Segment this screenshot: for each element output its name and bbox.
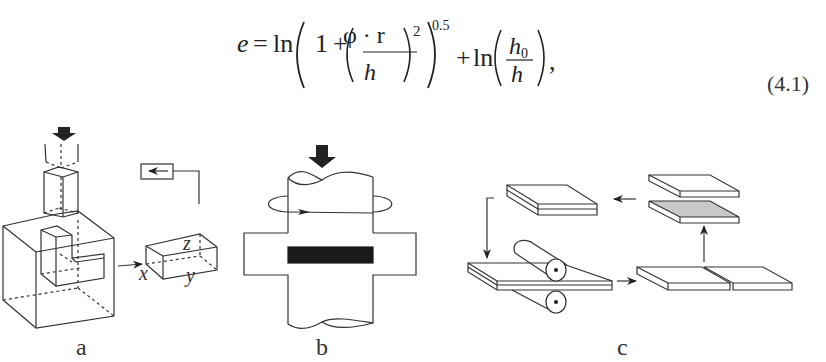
figure-b-hpt (244, 145, 416, 328)
figure-diagrams (0, 0, 826, 362)
press-arrow-icon (52, 127, 76, 141)
figure-a-ecap (3, 127, 217, 328)
axis-label-x: x (139, 262, 148, 285)
figure-c-arb (468, 175, 792, 313)
press-arrow-icon (308, 145, 336, 168)
axis-label-z: z (183, 232, 191, 255)
figure-label-c: c (617, 334, 628, 361)
figure-label-b: b (316, 334, 328, 361)
sample-disk (288, 247, 373, 263)
figure-label-a: a (76, 334, 87, 361)
axis-label-y: y (186, 264, 195, 287)
